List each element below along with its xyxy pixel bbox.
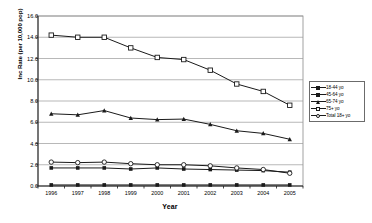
legend-marker-icon xyxy=(311,112,326,119)
x-tick-label: 2000 xyxy=(144,190,170,196)
legend-marker-icon xyxy=(311,105,326,112)
legend-marker-icon xyxy=(311,91,326,98)
x-tick-label: 2001 xyxy=(171,190,197,196)
legend-item-label: 75+ yo xyxy=(326,105,340,112)
chart-container: Inc Rate (per 10,000 pop) 0.02.04.06.08.… xyxy=(0,0,372,223)
legend-item-label: 45-64 yo xyxy=(326,91,343,98)
chart-legend: 18-44 yo45-64 yo65-74 yo75+ yoTotal 18+ … xyxy=(309,81,365,122)
legend-item[interactable]: 65-74 yo xyxy=(311,98,363,105)
x-axis-title: Year xyxy=(36,203,304,210)
legend-item[interactable]: 18-44 yo xyxy=(311,84,363,91)
x-tick-label: 1997 xyxy=(65,190,91,196)
x-tick-label: 2003 xyxy=(224,190,250,196)
x-tick-label: 2005 xyxy=(277,190,303,196)
x-tick-label: 2004 xyxy=(250,190,276,196)
legend-item-label: 65-74 yo xyxy=(326,98,343,105)
x-tick-label: 1996 xyxy=(38,190,64,196)
x-tick-label: 2002 xyxy=(197,190,223,196)
legend-marker-icon xyxy=(311,84,326,91)
legend-marker-icon xyxy=(311,98,326,105)
legend-item[interactable]: 75+ yo xyxy=(311,105,363,112)
x-tick-label: 1998 xyxy=(91,190,117,196)
legend-item-label: 18-44 yo xyxy=(326,84,343,91)
x-tick-label: 1999 xyxy=(118,190,144,196)
legend-item-label: Total 18+ yo xyxy=(326,112,350,119)
legend-item[interactable]: 45-64 yo xyxy=(311,91,363,98)
legend-item[interactable]: Total 18+ yo xyxy=(311,112,363,119)
